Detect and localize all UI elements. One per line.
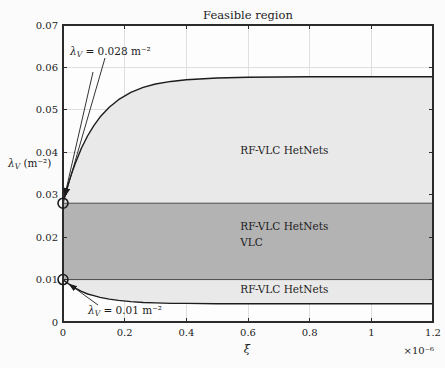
- middle-region-label: RF-VLC HetNets: [240, 220, 328, 232]
- y-axis-label: λV (m⁻²): [7, 157, 51, 171]
- x-tick-label: 0: [60, 327, 66, 338]
- var-symbol: λ: [87, 304, 95, 316]
- y-tick-label: 0.02: [36, 232, 58, 243]
- x-tick-label: 0.2: [117, 327, 133, 338]
- x-tick-label: 1: [368, 327, 374, 338]
- x-tick-label: 1.2: [425, 327, 441, 338]
- chart-title: Feasible region: [203, 8, 293, 22]
- middle-region-label: VLC: [239, 236, 263, 248]
- var-symbol: λ: [69, 45, 77, 57]
- y-tick-label: 0.06: [36, 62, 58, 73]
- x-axis-label: ξ: [244, 342, 251, 356]
- y-tick-label: 0.01: [36, 274, 58, 285]
- y-axis-label-text: λV (m⁻²): [7, 157, 51, 171]
- x-tick-label: 0.4: [178, 327, 194, 338]
- annotation-text-0: λV = 0.028 m⁻²: [69, 45, 151, 59]
- y-tick-label: 0.03: [36, 189, 58, 200]
- lower-region-label: RF-VLC HetNets: [240, 283, 328, 295]
- x-axis-scale-multiplier: ×10⁻⁶: [404, 345, 434, 356]
- var-symbol: λ: [7, 157, 15, 169]
- y-tick-label: 0.05: [36, 104, 58, 115]
- text-tail: = 0.028 m⁻²: [82, 45, 151, 57]
- x-tick-label: 0.6: [240, 327, 256, 338]
- upper-region-label: RF-VLC HetNets: [240, 144, 328, 156]
- y-tick-label: 0.07: [36, 20, 58, 31]
- x-tick-label: 0.8: [302, 327, 318, 338]
- text-tail: = 0.01 m⁻²: [100, 304, 162, 316]
- region-fills: [63, 77, 433, 304]
- feasible-region-chart: 00.20.40.60.811.200.010.020.030.040.050.…: [0, 0, 445, 368]
- y-tick-label: 0: [52, 317, 58, 328]
- text-tail: (m⁻²): [20, 157, 51, 169]
- feasible-region-figure: 00.20.40.60.811.200.010.020.030.040.050.…: [0, 0, 445, 368]
